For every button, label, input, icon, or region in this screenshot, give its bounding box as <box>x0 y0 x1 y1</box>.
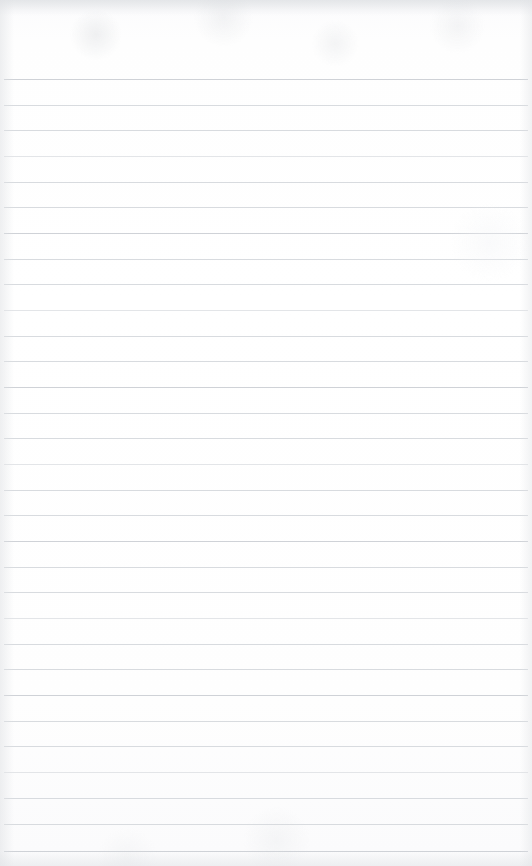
rule-line <box>4 695 528 696</box>
rule-line <box>4 105 528 106</box>
rule-line <box>4 387 528 388</box>
rule-line <box>4 438 528 439</box>
rule-line <box>4 644 528 645</box>
rule-line <box>4 798 528 799</box>
rule-line <box>4 618 528 619</box>
rule-line <box>4 233 528 234</box>
rule-line <box>4 851 528 852</box>
rule-line <box>4 310 528 311</box>
rule-line <box>4 567 528 568</box>
rule-line <box>4 130 528 131</box>
rule-line <box>4 284 528 285</box>
rule-line <box>4 79 528 80</box>
rule-line <box>4 669 528 670</box>
rule-line <box>4 413 528 414</box>
rule-line <box>4 490 528 491</box>
rule-line <box>4 772 528 773</box>
notepaper-page <box>0 0 532 866</box>
ruled-lines-group <box>0 0 532 866</box>
rule-line <box>4 156 528 157</box>
rule-line <box>4 824 528 825</box>
rule-line <box>4 336 528 337</box>
rule-line <box>4 515 528 516</box>
rule-line <box>4 361 528 362</box>
rule-line <box>4 207 528 208</box>
rule-line <box>4 541 528 542</box>
rule-line <box>4 182 528 183</box>
rule-line <box>4 259 528 260</box>
rule-line <box>4 592 528 593</box>
rule-line <box>4 464 528 465</box>
rule-line <box>4 721 528 722</box>
rule-line <box>4 746 528 747</box>
